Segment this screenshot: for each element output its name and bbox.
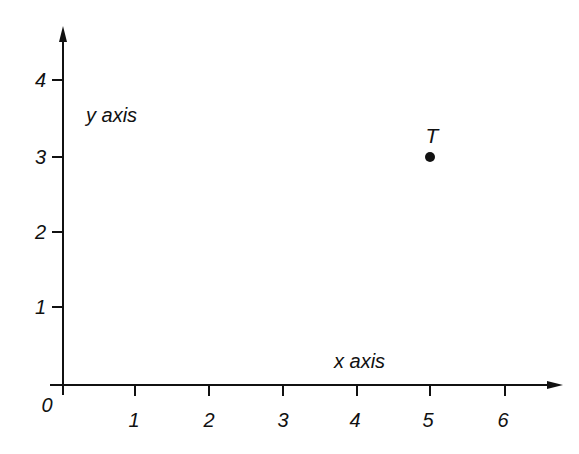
- point-t-marker: [425, 152, 435, 162]
- y-tick-label: 1: [35, 296, 46, 318]
- y-axis-arrow-icon: [59, 26, 67, 42]
- x-tick-label: 5: [422, 409, 434, 431]
- y-tick-label: 4: [35, 69, 46, 91]
- coordinate-plane: 1 2 3 4 5 6 1 2 3 4 0 y axis x axis T: [0, 0, 579, 454]
- x-tick-label: 2: [202, 409, 214, 431]
- x-ticks: [135, 385, 505, 396]
- x-axis-arrow-icon: [547, 381, 563, 389]
- y-tick-label: 2: [34, 221, 46, 243]
- x-tick-label: 1: [128, 409, 139, 431]
- y-tick-label: 3: [35, 146, 46, 168]
- y-ticks: [52, 80, 63, 307]
- origin-label: 0: [41, 394, 52, 416]
- x-axis-title: x axis: [333, 350, 385, 372]
- x-tick-label: 3: [277, 409, 288, 431]
- point-t-label: T: [426, 124, 441, 147]
- x-tick-label: 4: [349, 409, 360, 431]
- y-axis-title: y axis: [84, 104, 137, 126]
- x-tick-label: 6: [497, 409, 509, 431]
